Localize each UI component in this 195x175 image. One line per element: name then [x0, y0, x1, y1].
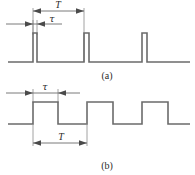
panel-b-width-arrow-right	[58, 90, 66, 96]
panel-b-period-arrow-right	[79, 140, 87, 146]
panel-a-period-arrow-left	[33, 8, 41, 14]
panel-a-period-dimension: T	[33, 0, 84, 62]
panel-b-waveform	[8, 102, 190, 124]
panel-b-period-arrow-left	[33, 140, 41, 146]
panel-a-period-label: T	[55, 0, 62, 10]
panel-a: T τ (a)	[6, 0, 190, 82]
panel-b-width-arrow-left	[25, 90, 33, 96]
panel-a-period-arrow-right	[76, 8, 84, 14]
panel-b-caption: (b)	[101, 160, 113, 172]
panel-b: τ T (b)	[6, 81, 190, 172]
panel-a-waveform	[8, 33, 190, 62]
panel-a-width-arrow-left	[25, 21, 33, 27]
panel-a-width-dimension: τ	[6, 13, 62, 35]
waveform-diagram-svg: T τ (a)	[0, 0, 195, 175]
panel-b-width-dimension: τ	[6, 81, 80, 103]
panel-a-width-arrow-right	[37, 21, 45, 27]
pulse-train-figure: T τ (a)	[0, 0, 195, 175]
panel-a-caption: (a)	[101, 70, 112, 82]
panel-a-width-label: τ	[49, 13, 55, 24]
panel-b-period-label: T	[58, 131, 65, 142]
panel-b-width-label: τ	[42, 81, 48, 92]
